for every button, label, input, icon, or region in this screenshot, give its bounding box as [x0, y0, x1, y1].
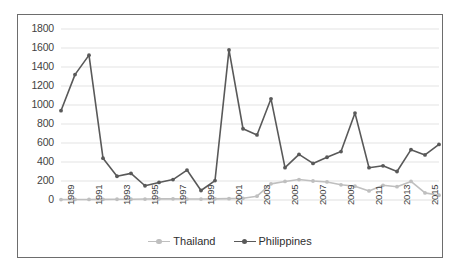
data-point [171, 197, 175, 201]
data-point [437, 143, 441, 147]
data-point [423, 153, 427, 157]
x-tick-label: 2007 [317, 185, 328, 205]
data-point [339, 150, 343, 154]
legend-item-philippines[interactable]: Philippines [234, 235, 312, 247]
data-point [199, 197, 203, 201]
data-point [395, 170, 399, 174]
data-point [255, 133, 259, 137]
x-tick-label: 2011 [373, 185, 384, 205]
data-point [115, 197, 119, 201]
data-point [171, 178, 175, 182]
x-tick-label: 2001 [233, 185, 244, 205]
chart-frame: 020040060080010001200140016001800 198919… [17, 14, 443, 258]
data-point [339, 183, 343, 187]
y-tick-label: 1600 [20, 42, 54, 52]
x-tick-label: 2003 [261, 185, 272, 205]
data-point [423, 191, 427, 195]
line-chart-svg [18, 15, 444, 259]
y-tick-label: 1800 [20, 23, 54, 33]
data-point [325, 180, 329, 184]
data-point [297, 153, 301, 157]
data-point [409, 148, 413, 152]
chart-plot-area: 020040060080010001200140016001800 198919… [18, 15, 444, 259]
x-tick-label: 1991 [93, 185, 104, 205]
data-point [409, 180, 413, 184]
data-point [395, 185, 399, 189]
x-tick-label: 2013 [401, 185, 412, 205]
y-tick-label: 1200 [20, 80, 54, 90]
y-tick-label: 800 [20, 118, 54, 128]
data-point [87, 198, 91, 202]
legend-swatch-icon [234, 236, 256, 246]
x-tick-label: 2005 [289, 185, 300, 205]
data-point [311, 179, 315, 183]
data-point [227, 48, 231, 52]
x-tick-label: 2015 [429, 185, 440, 205]
x-tick-label: 1989 [65, 185, 76, 205]
data-point [367, 166, 371, 170]
data-point [283, 180, 287, 184]
data-point [101, 156, 105, 160]
data-point [325, 155, 329, 159]
series-philippines [59, 48, 441, 192]
y-tick-label: 0 [20, 194, 54, 204]
data-point [241, 127, 245, 131]
data-point [143, 197, 147, 201]
x-tick-label: 1997 [177, 185, 188, 205]
x-tick-label: 1993 [121, 185, 132, 205]
data-point [353, 111, 357, 115]
y-tick-label: 1400 [20, 61, 54, 71]
y-tick-label: 600 [20, 137, 54, 147]
legend-swatch-icon [148, 236, 170, 246]
legend-item-thailand[interactable]: Thailand [148, 235, 215, 247]
y-tick-label: 1000 [20, 99, 54, 109]
data-point [129, 172, 133, 176]
data-point [227, 197, 231, 201]
data-point [213, 179, 217, 183]
data-point [185, 168, 189, 172]
legend-label: Philippines [259, 235, 312, 247]
data-point [381, 164, 385, 168]
y-tick-label: 400 [20, 156, 54, 166]
data-point [297, 178, 301, 182]
data-point [255, 194, 259, 198]
legend-label: Thailand [173, 235, 215, 247]
data-point [59, 109, 63, 113]
chart-legend: ThailandPhilippines [18, 235, 442, 247]
data-point [311, 162, 315, 166]
series-line [61, 50, 439, 191]
data-point [199, 189, 203, 193]
data-point [269, 97, 273, 101]
data-point [59, 198, 63, 202]
y-tick-label: 200 [20, 175, 54, 185]
x-tick-label: 2009 [345, 185, 356, 205]
data-point [283, 166, 287, 170]
data-point [367, 189, 371, 193]
x-tick-label: 1995 [149, 185, 160, 205]
data-point [87, 53, 91, 57]
data-point [115, 174, 119, 178]
data-point [73, 73, 77, 77]
x-tick-label: 1999 [205, 185, 216, 205]
data-point [143, 184, 147, 188]
